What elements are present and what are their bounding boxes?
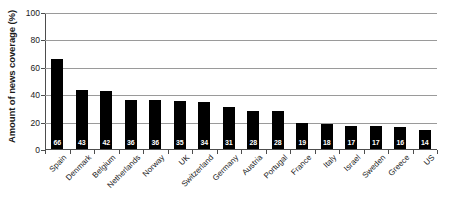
gridline xyxy=(45,40,437,41)
bar: 17 xyxy=(345,126,357,149)
bar-value-label: 43 xyxy=(76,139,88,147)
y-tick-label: 40 xyxy=(31,90,40,100)
plot-area: 66434236363534312828191817171614 xyxy=(45,13,437,150)
x-category-label: Italy xyxy=(321,153,338,170)
bar-value-label: 28 xyxy=(272,139,284,147)
bar-value-label: 18 xyxy=(321,139,333,147)
bar: 18 xyxy=(321,124,333,149)
y-axis-title: Amount of news coverage (%) xyxy=(0,0,22,152)
y-tick-mark xyxy=(41,68,45,69)
y-axis-tick-labels: 020406080100 xyxy=(20,13,44,150)
bar: 19 xyxy=(296,123,308,149)
y-tick-mark xyxy=(41,13,45,14)
bar-value-label: 31 xyxy=(223,139,235,147)
x-category-label: Portugal xyxy=(262,153,289,180)
x-category-label: Germany xyxy=(210,153,240,183)
bar-value-label: 28 xyxy=(247,139,259,147)
y-tick-label: 60 xyxy=(31,63,40,73)
y-tick-label: 80 xyxy=(31,35,40,45)
bar: 14 xyxy=(419,130,431,149)
bar-value-label: 17 xyxy=(345,139,357,147)
y-tick-label: 0 xyxy=(35,145,40,155)
x-category-label: Israel xyxy=(342,153,362,173)
gridline xyxy=(45,68,437,69)
x-tick-mark xyxy=(437,150,438,154)
bar: 66 xyxy=(51,59,63,149)
x-category-label: France xyxy=(290,153,314,177)
bar: 36 xyxy=(125,100,137,149)
bar-value-label: 42 xyxy=(100,139,112,147)
y-tick-mark xyxy=(41,40,45,41)
bar-value-label: 36 xyxy=(149,139,161,147)
bar-value-label: 19 xyxy=(296,139,308,147)
bar: 17 xyxy=(370,126,382,149)
bar: 31 xyxy=(223,107,235,149)
bar-value-label: 34 xyxy=(198,139,210,147)
x-category-label: Denmark xyxy=(64,153,93,182)
bar: 34 xyxy=(198,102,210,149)
x-category-label: Norway xyxy=(141,153,167,179)
bar: 35 xyxy=(174,101,186,149)
bar: 42 xyxy=(100,91,112,149)
x-category-label: UK xyxy=(177,153,191,167)
bar: 28 xyxy=(272,111,284,149)
y-tick-label: 20 xyxy=(31,118,40,128)
y-axis-title-text: Amount of news coverage (%) xyxy=(6,10,17,143)
bar: 43 xyxy=(76,90,88,149)
bar-value-label: 16 xyxy=(394,139,406,147)
x-axis-category-labels: SpainDenmarkBelgiumNetherlandsNorwayUKSw… xyxy=(45,151,437,206)
bar-value-label: 17 xyxy=(370,139,382,147)
bar-value-label: 36 xyxy=(125,139,137,147)
bar-value-label: 66 xyxy=(51,139,63,147)
x-category-label: Spain xyxy=(48,153,69,174)
bar-value-label: 14 xyxy=(419,139,431,147)
bar: 28 xyxy=(247,111,259,149)
bar: 16 xyxy=(394,127,406,149)
x-category-label: Greece xyxy=(387,153,412,178)
y-axis-line xyxy=(45,13,46,150)
y-tick-mark xyxy=(41,95,45,96)
bar: 36 xyxy=(149,100,161,149)
y-tick-mark xyxy=(41,123,45,124)
bar-value-label: 35 xyxy=(174,139,186,147)
bar-chart: Amount of news coverage (%) 020406080100… xyxy=(0,0,452,206)
x-category-label: US xyxy=(422,153,436,167)
x-category-label: Sweden xyxy=(360,153,387,180)
gridline xyxy=(45,13,437,14)
y-tick-label: 100 xyxy=(26,8,40,18)
